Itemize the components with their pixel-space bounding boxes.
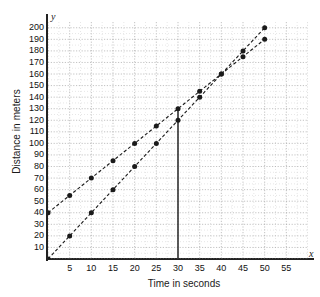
x-axis-title: Time in seconds — [48, 278, 320, 289]
data-point — [219, 72, 224, 77]
data-point — [132, 164, 137, 169]
data-point — [197, 89, 202, 94]
data-point — [154, 141, 159, 146]
data-point — [262, 25, 267, 30]
data-point — [262, 37, 267, 42]
data-point — [176, 118, 181, 123]
y-tick-label: 150 — [20, 80, 44, 90]
data-point — [111, 187, 116, 192]
data-point — [89, 176, 94, 181]
data-point — [197, 95, 202, 100]
y-tick-label: 120 — [20, 115, 44, 125]
data-point — [89, 210, 94, 215]
y-tick-label: 170 — [20, 57, 44, 67]
y-tick-label: 190 — [20, 34, 44, 44]
data-point — [111, 158, 116, 163]
x-tick-label: 5 — [60, 263, 80, 273]
plot-area — [48, 22, 308, 259]
data-point — [241, 54, 246, 59]
y-tick-label: 30 — [20, 219, 44, 229]
data-point — [67, 193, 72, 198]
y-tick-label: 110 — [20, 126, 44, 136]
x-tick-label: 30 — [168, 263, 188, 273]
y-tick-label: 60 — [20, 184, 44, 194]
data-point — [154, 124, 159, 129]
x-tick-label: 55 — [276, 263, 296, 273]
distance-time-graph: Distance in meters Time in seconds y x 1… — [0, 0, 320, 297]
y-tick-label: 200 — [20, 22, 44, 32]
y-axis-letter: y — [51, 11, 55, 22]
y-tick-label: 90 — [20, 149, 44, 159]
x-tick-label: 45 — [233, 263, 253, 273]
y-tick-label: 20 — [20, 230, 44, 240]
x-tick-label: 10 — [81, 263, 101, 273]
x-tick-label: 20 — [125, 263, 145, 273]
series-layer — [48, 25, 267, 259]
x-tick-label: 15 — [103, 263, 123, 273]
x-tick-label: 40 — [211, 263, 231, 273]
data-point — [67, 233, 72, 238]
x-tick-label: 50 — [255, 263, 275, 273]
plot-svg — [48, 22, 308, 259]
y-tick-label: 130 — [20, 103, 44, 113]
y-tick-label: 160 — [20, 69, 44, 79]
y-tick-label: 70 — [20, 173, 44, 183]
y-tick-label: 50 — [20, 196, 44, 206]
data-point — [176, 106, 181, 111]
y-tick-label: 80 — [20, 161, 44, 171]
y-tick-label: 140 — [20, 92, 44, 102]
y-tick-label: 100 — [20, 138, 44, 148]
y-tick-label: 10 — [20, 242, 44, 252]
data-point — [241, 48, 246, 53]
x-tick-label: 35 — [190, 263, 210, 273]
x-tick-label: 25 — [146, 263, 166, 273]
y-tick-label: 40 — [20, 207, 44, 217]
data-point — [132, 141, 137, 146]
y-tick-label: 180 — [20, 45, 44, 55]
